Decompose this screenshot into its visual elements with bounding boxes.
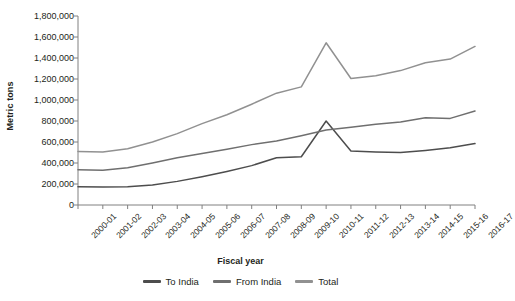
- y-axis-tick-labels: 0200,000400,000600,000800,0001,000,0001,…: [16, 0, 78, 212]
- y-axis-tick-label: 1,200,000: [34, 74, 74, 84]
- y-axis-tick-label: 600,000: [41, 137, 74, 147]
- y-axis-title-text: Metric tons: [5, 81, 15, 130]
- y-axis-tick-label: 0: [69, 200, 74, 210]
- legend-item[interactable]: Total: [295, 276, 338, 287]
- series-line: [78, 121, 475, 187]
- x-axis-tick-label: 2016-17: [486, 211, 515, 240]
- legend-label: To India: [166, 276, 199, 287]
- series-line: [78, 111, 475, 170]
- legend-label: From India: [236, 276, 281, 287]
- axis-ticks: [74, 16, 475, 209]
- y-axis-tick-label: 1,000,000: [34, 95, 74, 105]
- legend-item[interactable]: To India: [143, 276, 199, 287]
- legend-label: Total: [318, 276, 338, 287]
- x-axis-tick-label: 2010-11: [337, 211, 366, 240]
- x-axis-tick-label: 2014-15: [436, 211, 465, 240]
- x-axis-tick-label: 2004-05: [188, 211, 217, 240]
- x-axis-tick-label: 2012-13: [387, 211, 416, 240]
- legend-swatch-icon: [143, 280, 161, 282]
- y-axis-tick-label: 1,800,000: [34, 11, 74, 21]
- legend-swatch-icon: [295, 280, 313, 282]
- y-axis-tick-label: 200,000: [41, 179, 74, 189]
- legend-item[interactable]: From India: [213, 276, 281, 287]
- x-axis-tick-label: 2005-06: [213, 211, 242, 240]
- x-axis-tick-label: 2001-02: [114, 211, 143, 240]
- x-axis-tick-label: 2009-10: [312, 211, 341, 240]
- y-axis-tick-label: 800,000: [41, 116, 74, 126]
- x-axis-tick-label: 2003-04: [163, 211, 192, 240]
- plot-area: [78, 16, 475, 205]
- y-axis-tick-label: 400,000: [41, 158, 74, 168]
- x-axis-tick-label: 2015-16: [461, 211, 490, 240]
- chart-legend: To IndiaFrom IndiaTotal: [0, 276, 481, 287]
- series-lines: [78, 43, 475, 187]
- x-axis-tick-label: 2002-03: [139, 211, 168, 240]
- x-axis-tick-label: 2007-08: [263, 211, 292, 240]
- y-axis-tick-label: 1,600,000: [34, 32, 74, 42]
- x-axis-tick-label: 2006-07: [238, 211, 267, 240]
- y-axis-tick-label: 1,400,000: [34, 53, 74, 63]
- x-axis-title: Fiscal year: [0, 256, 481, 266]
- x-axis-tick-labels: 2000-012001-022002-032003-042004-052005-…: [78, 207, 475, 259]
- x-axis-tick-label: 2013-14: [412, 211, 441, 240]
- plot-svg: [78, 16, 475, 205]
- series-line: [78, 43, 475, 152]
- axis-lines: [78, 16, 475, 205]
- x-axis-tick-label: 2011-12: [362, 211, 391, 240]
- x-axis-tick-label: 2008-09: [288, 211, 317, 240]
- legend-swatch-icon: [213, 280, 231, 282]
- x-axis-tick-label: 2000-01: [89, 211, 118, 240]
